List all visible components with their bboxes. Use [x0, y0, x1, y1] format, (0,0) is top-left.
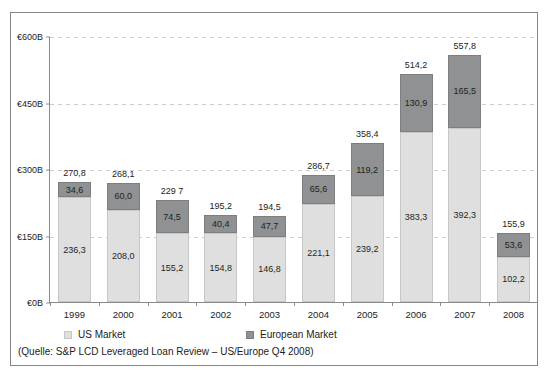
bar-2002: 40,4154,8 [204, 215, 237, 302]
x-axis-tick [392, 302, 393, 306]
x-axis-tick [245, 302, 246, 306]
y-axis-tick-label: €600B [17, 32, 43, 42]
total-value-label: 194,5 [245, 202, 294, 212]
bar-2004: 65,6221,1 [302, 175, 335, 302]
us-value-label: 221,1 [307, 248, 330, 258]
bar-2000: 60,0208,0 [107, 183, 140, 302]
y-axis-tick-label: €450B [17, 99, 43, 109]
legend-item-european-market: European Market [246, 329, 337, 340]
y-axis-tick [46, 236, 50, 237]
chart-frame: €600B€450B€300B€150B€0B34,6236,3270,8199… [10, 12, 538, 366]
us-market-swatch-icon [64, 331, 72, 339]
plot-area: €600B€450B€300B€150B€0B34,6236,3270,8199… [49, 37, 537, 303]
eu-value-label: 65,6 [310, 184, 328, 194]
x-axis-tick [343, 302, 344, 306]
bar-2007: 165,5392,3 [448, 55, 481, 302]
us-market-segment: 102,2 [497, 257, 530, 302]
y-axis-tick [46, 103, 50, 104]
us-value-label: 383,3 [405, 212, 428, 222]
european-market-segment: 47,7 [253, 216, 286, 237]
total-value-label: 229 7 [148, 186, 197, 196]
eu-value-label: 60,0 [114, 191, 132, 201]
bar-2003: 47,7146,8 [253, 216, 286, 302]
eu-value-label: 40,4 [212, 219, 230, 229]
gridline [50, 37, 537, 38]
bar-2008: 53,6102,2 [497, 233, 530, 302]
x-axis-tick [196, 302, 197, 306]
x-axis-tick [99, 302, 100, 306]
us-market-legend-label: US Market [78, 329, 125, 340]
eu-value-label: 74,5 [163, 212, 181, 222]
us-value-label: 154,8 [210, 263, 233, 273]
bar-2005: 119,2239,2 [351, 143, 384, 302]
y-axis-tick-label: €0B [27, 298, 43, 308]
x-axis-year-label: 2008 [489, 309, 538, 320]
total-value-label: 270,8 [50, 168, 99, 178]
european-market-segment: 34,6 [58, 182, 91, 197]
european-market-segment: 53,6 [497, 233, 530, 257]
eu-value-label: 47,7 [261, 221, 279, 231]
european-market-segment: 119,2 [351, 143, 384, 196]
x-axis-tick [294, 302, 295, 306]
x-axis-year-label: 2003 [245, 309, 294, 320]
us-value-label: 102,2 [502, 274, 525, 284]
us-value-label: 392,3 [454, 210, 477, 220]
total-value-label: 155,9 [489, 219, 538, 229]
x-axis-year-label: 2000 [99, 309, 148, 320]
us-value-label: 236,3 [63, 245, 86, 255]
european-market-segment: 60,0 [107, 183, 140, 210]
us-market-segment: 236,3 [58, 197, 91, 302]
bar-2001: 74,5155,2 [156, 200, 189, 302]
european-market-segment: 65,6 [302, 175, 335, 204]
source-citation: (Quelle: S&P LCD Leveraged Loan Review –… [18, 346, 314, 357]
total-value-label: 358,4 [343, 129, 392, 139]
eu-value-label: 34,6 [66, 185, 84, 195]
x-axis-year-label: 2006 [392, 309, 441, 320]
us-market-segment: 383,3 [400, 132, 433, 302]
us-market-segment: 239,2 [351, 196, 384, 302]
us-value-label: 146,8 [258, 264, 281, 274]
eu-value-label: 165,5 [454, 86, 477, 96]
y-axis-tick-label: €300B [17, 165, 43, 175]
european-market-segment: 40,4 [204, 215, 237, 233]
us-value-label: 155,2 [161, 263, 184, 273]
y-axis-tick-label: €150B [17, 232, 43, 242]
bar-2006: 130,9383,3 [400, 74, 433, 302]
x-axis-year-label: 1999 [50, 309, 99, 320]
us-value-label: 239,2 [356, 244, 379, 254]
eu-value-label: 53,6 [505, 240, 523, 250]
eu-value-label: 119,2 [356, 165, 378, 175]
total-value-label: 195,2 [196, 201, 245, 211]
legend-item-us-market: US Market [64, 329, 125, 340]
y-axis-tick [46, 37, 50, 38]
x-axis-tick [440, 302, 441, 306]
bar-1999: 34,6236,3 [58, 182, 91, 302]
us-market-segment: 392,3 [448, 128, 481, 302]
x-axis-tick [489, 302, 490, 306]
x-axis-year-label: 2002 [196, 309, 245, 320]
total-value-label: 557,8 [440, 41, 489, 51]
x-axis-year-label: 2001 [148, 309, 197, 320]
x-axis-tick [537, 302, 538, 306]
us-market-segment: 146,8 [253, 237, 286, 302]
us-market-segment: 154,8 [204, 233, 237, 302]
x-axis-year-label: 2005 [343, 309, 392, 320]
european-market-swatch-icon [246, 331, 254, 339]
x-axis-year-label: 2007 [440, 309, 489, 320]
eu-value-label: 130,9 [405, 98, 428, 108]
european-market-legend-label: European Market [260, 329, 337, 340]
us-market-segment: 155,2 [156, 233, 189, 302]
us-market-segment: 221,1 [302, 204, 335, 302]
total-value-label: 286,7 [294, 161, 343, 171]
european-market-segment: 130,9 [400, 74, 433, 132]
european-market-segment: 74,5 [156, 200, 189, 233]
x-axis-tick [50, 302, 51, 306]
total-value-label: 514,2 [392, 60, 441, 70]
us-value-label: 208,0 [112, 251, 135, 261]
european-market-segment: 165,5 [448, 55, 481, 128]
total-value-label: 268,1 [99, 169, 148, 179]
x-axis-tick [148, 302, 149, 306]
us-market-segment: 208,0 [107, 210, 140, 302]
x-axis-year-label: 2004 [294, 309, 343, 320]
